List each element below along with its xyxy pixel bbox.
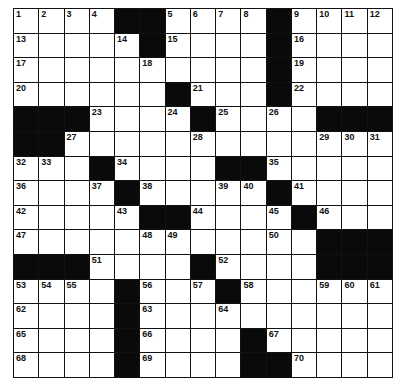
crossword-cell[interactable] <box>342 58 366 82</box>
crossword-cell[interactable] <box>90 353 114 377</box>
crossword-cell[interactable]: 54 <box>39 280 63 304</box>
crossword-cell[interactable] <box>39 181 63 205</box>
crossword-cell[interactable] <box>292 329 316 353</box>
crossword-cell[interactable] <box>39 329 63 353</box>
crossword-cell[interactable] <box>140 157 164 181</box>
crossword-cell[interactable]: 57 <box>191 280 215 304</box>
crossword-cell[interactable]: 11 <box>342 9 366 33</box>
crossword-cell[interactable]: 28 <box>191 132 215 156</box>
crossword-cell[interactable]: 68 <box>14 353 38 377</box>
crossword-cell[interactable]: 43 <box>115 206 139 230</box>
crossword-cell[interactable] <box>342 181 366 205</box>
crossword-cell[interactable] <box>317 58 341 82</box>
crossword-cell[interactable] <box>216 83 240 107</box>
crossword-cell[interactable] <box>39 58 63 82</box>
crossword-cell[interactable] <box>342 83 366 107</box>
crossword-cell[interactable] <box>90 304 114 328</box>
crossword-cell[interactable]: 1 <box>14 9 38 33</box>
crossword-cell[interactable]: 67 <box>267 329 291 353</box>
crossword-cell[interactable]: 20 <box>14 83 38 107</box>
crossword-cell[interactable] <box>191 34 215 58</box>
crossword-cell[interactable]: 21 <box>191 83 215 107</box>
crossword-cell[interactable] <box>368 181 392 205</box>
crossword-cell[interactable] <box>191 230 215 254</box>
crossword-cell[interactable] <box>317 83 341 107</box>
crossword-cell[interactable] <box>317 304 341 328</box>
crossword-cell[interactable]: 23 <box>90 107 114 131</box>
crossword-cell[interactable] <box>65 83 89 107</box>
crossword-cell[interactable] <box>140 83 164 107</box>
crossword-cell[interactable] <box>65 206 89 230</box>
crossword-cell[interactable]: 13 <box>14 34 38 58</box>
crossword-cell[interactable] <box>65 353 89 377</box>
crossword-cell[interactable] <box>342 157 366 181</box>
crossword-cell[interactable] <box>292 255 316 279</box>
crossword-cell[interactable]: 69 <box>140 353 164 377</box>
crossword-cell[interactable]: 44 <box>191 206 215 230</box>
crossword-cell[interactable] <box>267 255 291 279</box>
crossword-cell[interactable] <box>140 132 164 156</box>
crossword-cell[interactable]: 36 <box>14 181 38 205</box>
crossword-cell[interactable] <box>39 353 63 377</box>
crossword-cell[interactable] <box>317 157 341 181</box>
crossword-cell[interactable] <box>216 206 240 230</box>
crossword-cell[interactable]: 14 <box>115 34 139 58</box>
crossword-cell[interactable]: 56 <box>140 280 164 304</box>
crossword-cell[interactable]: 5 <box>166 9 190 33</box>
crossword-cell[interactable] <box>368 157 392 181</box>
crossword-cell[interactable] <box>368 304 392 328</box>
crossword-cell[interactable] <box>39 230 63 254</box>
crossword-cell[interactable] <box>267 280 291 304</box>
crossword-cell[interactable] <box>317 181 341 205</box>
crossword-cell[interactable] <box>166 58 190 82</box>
crossword-cell[interactable]: 41 <box>292 181 316 205</box>
crossword-cell[interactable]: 48 <box>140 230 164 254</box>
crossword-cell[interactable] <box>65 304 89 328</box>
crossword-cell[interactable]: 53 <box>14 280 38 304</box>
crossword-cell[interactable]: 60 <box>342 280 366 304</box>
crossword-cell[interactable] <box>216 34 240 58</box>
crossword-cell[interactable]: 25 <box>216 107 240 131</box>
crossword-cell[interactable]: 65 <box>14 329 38 353</box>
crossword-cell[interactable] <box>140 255 164 279</box>
crossword-cell[interactable] <box>191 304 215 328</box>
crossword-cell[interactable]: 58 <box>241 280 265 304</box>
crossword-cell[interactable] <box>115 58 139 82</box>
crossword-cell[interactable] <box>140 107 164 131</box>
crossword-cell[interactable]: 7 <box>216 9 240 33</box>
crossword-cell[interactable] <box>90 83 114 107</box>
crossword-cell[interactable] <box>241 304 265 328</box>
crossword-cell[interactable]: 59 <box>317 280 341 304</box>
crossword-cell[interactable] <box>368 83 392 107</box>
crossword-cell[interactable]: 30 <box>342 132 366 156</box>
crossword-cell[interactable]: 33 <box>39 157 63 181</box>
crossword-cell[interactable] <box>65 157 89 181</box>
crossword-cell[interactable] <box>90 206 114 230</box>
crossword-cell[interactable] <box>342 206 366 230</box>
crossword-cell[interactable] <box>317 34 341 58</box>
crossword-cell[interactable] <box>90 230 114 254</box>
crossword-cell[interactable] <box>90 34 114 58</box>
crossword-cell[interactable] <box>65 34 89 58</box>
crossword-cell[interactable] <box>115 255 139 279</box>
crossword-cell[interactable] <box>368 353 392 377</box>
crossword-cell[interactable] <box>191 329 215 353</box>
crossword-cell[interactable] <box>166 280 190 304</box>
crossword-cell[interactable] <box>292 280 316 304</box>
crossword-cell[interactable] <box>368 329 392 353</box>
crossword-cell[interactable] <box>342 34 366 58</box>
crossword-cell[interactable]: 4 <box>90 9 114 33</box>
crossword-cell[interactable]: 63 <box>140 304 164 328</box>
crossword-cell[interactable] <box>317 353 341 377</box>
crossword-cell[interactable]: 37 <box>90 181 114 205</box>
crossword-cell[interactable] <box>191 353 215 377</box>
crossword-cell[interactable]: 15 <box>166 34 190 58</box>
crossword-cell[interactable] <box>368 34 392 58</box>
crossword-cell[interactable]: 8 <box>241 9 265 33</box>
crossword-cell[interactable]: 40 <box>241 181 265 205</box>
crossword-cell[interactable]: 45 <box>267 206 291 230</box>
crossword-cell[interactable]: 61 <box>368 280 392 304</box>
crossword-cell[interactable] <box>241 206 265 230</box>
crossword-cell[interactable] <box>39 206 63 230</box>
crossword-cell[interactable] <box>241 132 265 156</box>
